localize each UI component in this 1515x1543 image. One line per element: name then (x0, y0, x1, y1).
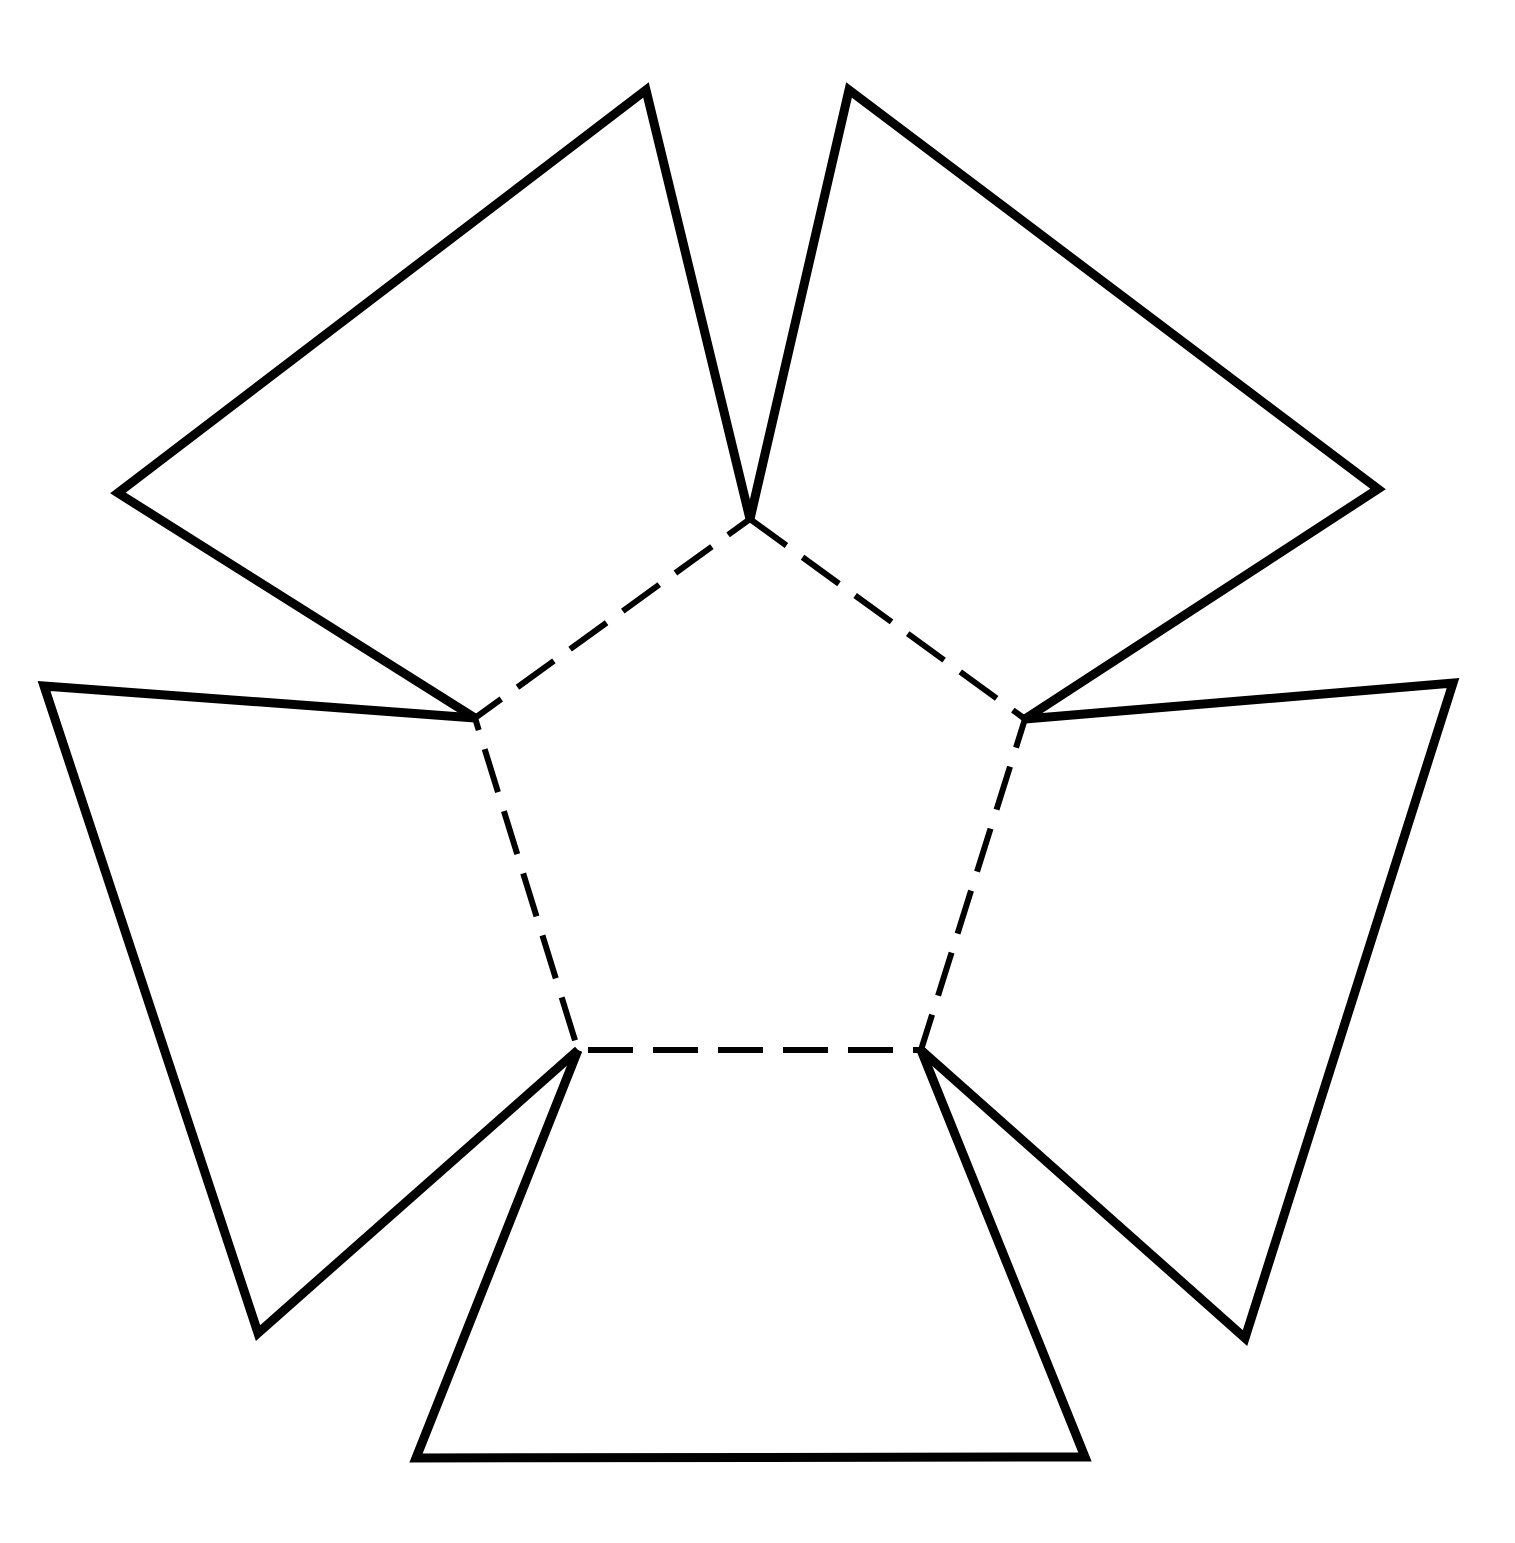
pentagonal-net-diagram (0, 0, 1515, 1543)
figure-root (0, 0, 1515, 1543)
